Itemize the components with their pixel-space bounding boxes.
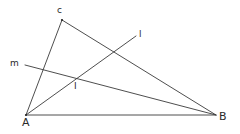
label-c: c xyxy=(57,5,62,15)
label-l: l xyxy=(139,29,142,39)
label-i: I xyxy=(74,81,77,91)
line-m xyxy=(25,65,216,115)
label-m: m xyxy=(10,58,19,68)
label-b: B xyxy=(219,110,227,123)
vertex-c-dot xyxy=(61,19,63,21)
line-l xyxy=(26,36,136,115)
label-a: A xyxy=(22,116,30,129)
side-ac xyxy=(26,20,62,115)
triangle-diagram: A B c I l m xyxy=(0,0,240,134)
